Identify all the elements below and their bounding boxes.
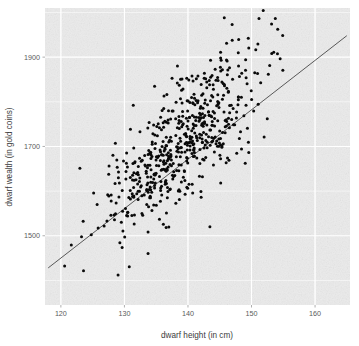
data-point [186,125,189,128]
data-point [231,39,234,42]
data-point [219,157,222,160]
data-point [221,68,224,71]
data-point [97,227,100,230]
data-point [160,185,163,188]
data-point [216,119,219,122]
data-point [223,16,226,19]
data-point [204,156,207,159]
data-point [172,109,175,112]
data-point [171,77,174,80]
data-point [252,110,255,113]
data-point [82,269,85,272]
data-point [228,66,231,69]
data-point [222,94,225,97]
plot-canvas: 120130140150160 150017001900 dwarf heigh… [0,0,359,346]
data-point [113,218,116,221]
data-point [125,162,128,165]
data-point [196,75,199,78]
data-point [90,233,93,236]
data-point [183,170,186,173]
data-point [121,189,124,192]
data-point [136,182,139,185]
data-point [195,157,198,160]
data-point [146,176,149,179]
data-point [195,77,198,80]
data-point [270,23,273,26]
data-point [185,117,188,120]
data-point [178,188,181,191]
data-point [203,102,206,105]
data-point [231,78,234,81]
data-point [224,125,227,128]
data-point [129,128,132,131]
data-point [124,207,127,210]
data-point [176,81,179,84]
data-point [237,65,240,68]
data-point [159,180,162,183]
data-point [214,79,217,82]
data-point [129,176,132,179]
data-point [140,212,143,215]
data-point [154,181,157,184]
data-point [70,244,73,247]
data-point [165,182,168,185]
data-point [211,140,214,143]
data-point [149,188,152,191]
data-point [186,162,189,165]
data-point [276,28,279,31]
data-point [175,169,178,172]
data-point [221,131,224,134]
data-point [189,144,192,147]
data-point [163,149,166,152]
data-point [162,107,165,110]
data-point [167,225,170,228]
data-point [247,47,250,50]
data-point [178,84,181,87]
data-point [182,176,185,179]
data-point [175,150,178,153]
data-point [213,112,216,115]
data-point [191,114,194,117]
tick-label-x: 120 [55,309,67,318]
data-point [200,83,203,86]
data-point [178,198,181,201]
data-point [126,166,129,169]
data-point [209,128,212,131]
data-point [191,101,194,104]
data-point [162,121,165,124]
data-point [162,223,165,226]
data-point [198,162,201,165]
data-point [244,69,247,72]
data-point [205,86,208,89]
data-point [169,163,172,166]
data-point [199,114,202,117]
data-point [177,122,180,125]
data-point [236,103,239,106]
data-point [175,101,178,104]
data-point [135,192,138,195]
data-point [225,87,228,90]
data-point [166,186,169,189]
data-point [188,101,191,104]
data-point [193,93,196,96]
data-point [199,190,202,193]
panel-texture [45,8,350,305]
data-point [256,72,259,75]
data-point [132,196,135,199]
data-point [155,172,158,175]
data-point [206,146,209,149]
data-point [189,138,192,141]
data-point [123,235,126,238]
data-point [230,118,233,121]
data-point [239,130,242,133]
data-point [180,151,183,154]
data-point [158,218,161,221]
data-point [137,165,140,168]
data-point [181,115,184,118]
data-point [193,124,196,127]
data-point [167,151,170,154]
data-point [186,99,189,102]
data-point [117,273,120,276]
data-point [245,76,248,79]
data-point [213,150,216,153]
